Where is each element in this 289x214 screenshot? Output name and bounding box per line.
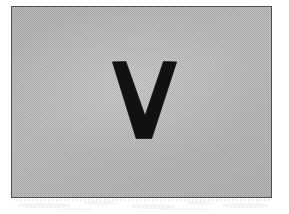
smudge-mark: [84, 201, 118, 205]
letter-v-glyph: [112, 60, 177, 140]
smudge-mark: [56, 208, 94, 211]
smudge-mark: [186, 201, 214, 205]
scan-canvas: [0, 0, 289, 214]
smudge-mark: [18, 203, 70, 208]
figure-box: [11, 6, 272, 198]
smudge-mark: [160, 208, 212, 211]
smudge-mark: [222, 203, 268, 208]
scan-bleed-through-artifacts: [0, 199, 289, 214]
smudge-mark: [131, 204, 175, 209]
letter-v-shape: [112, 60, 177, 140]
scan-speckle-artifact: [12, 199, 272, 201]
letter-container: [12, 7, 271, 197]
